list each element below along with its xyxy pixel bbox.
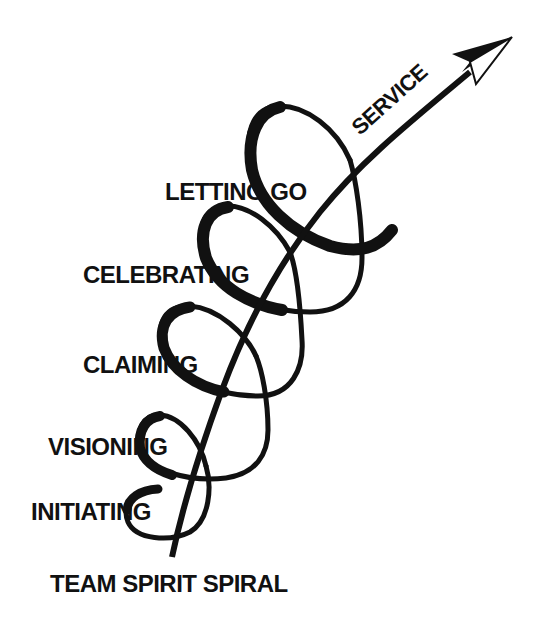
stage-label-visioning: VISIONING xyxy=(48,433,168,460)
stage-label-claiming: CLAIMING xyxy=(83,351,198,378)
stage-label-celebrating: CELEBRATING xyxy=(83,261,249,288)
spiral-graphic: SERVICE LETTING GO CELEBRATING CLAIMING … xyxy=(0,0,544,621)
stage-label-initiating: INITIATING xyxy=(31,498,151,525)
service-label: SERVICE xyxy=(347,59,433,140)
stage-label-letting-go: LETTING GO xyxy=(165,178,307,205)
diagram-title: TEAM SPIRIT SPIRAL xyxy=(50,570,288,597)
spiral-loops xyxy=(126,106,392,538)
team-spirit-spiral-diagram: SERVICE LETTING GO CELEBRATING CLAIMING … xyxy=(0,0,544,621)
